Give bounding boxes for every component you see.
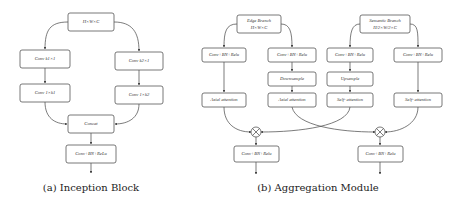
output-left-conv-label: Conv+BN+Relu xyxy=(241,151,272,156)
output-left-conv-box: Conv+BN+Relu xyxy=(234,146,279,162)
edge-branch-box: Edge Branch H×W×C xyxy=(237,15,281,33)
col1-conv-box: Conv+BN+Relu xyxy=(202,48,246,62)
col3-conv-label: Conv+BN+Relu xyxy=(335,52,366,57)
aggregation-module: Edge Branch H×W×C Semantic Branch H/2×W/… xyxy=(202,15,442,193)
output-right-conv-box: Conv+BN+Relu xyxy=(358,146,403,162)
edge-left-to-concat xyxy=(45,102,67,124)
edge-branch-title: Edge Branch xyxy=(246,18,272,23)
col3-attention-label: Self- attention xyxy=(337,97,364,102)
conv-k1x1-label: Conv k1×1 xyxy=(35,56,56,61)
edge-col1-to-mul-left xyxy=(224,107,251,132)
edge-input-to-left xyxy=(45,22,68,49)
input-label: H×W×C xyxy=(82,19,100,24)
semantic-branch-dims: H/2×W/2×C xyxy=(372,25,397,30)
conv-1xk1-box: Conv 1×k1 xyxy=(20,84,70,102)
conv-k2x1-box: Conv k2×1 xyxy=(115,52,163,70)
downsample-label: Downsample xyxy=(279,76,304,81)
edge-col3-to-mul-left xyxy=(261,107,350,132)
edge-col2-to-mul-right xyxy=(292,107,375,132)
inception-block: H×W×C Conv k1×1 Conv 1×k1 Conv k2×1 Conv… xyxy=(20,13,163,193)
col3-self-attention-box: Self- attention xyxy=(327,93,373,107)
concat-box: Concat xyxy=(68,115,114,133)
caption-inception-block: (a) Inception Block xyxy=(43,182,140,193)
caption-aggregation-module: (b) Aggregation Module xyxy=(257,182,379,193)
semantic-branch-box: Semantic Branch H/2×W/2×C xyxy=(360,15,410,33)
col4-conv-box: Conv+BN+Relu xyxy=(394,48,442,62)
upsample-label: Upsample xyxy=(341,76,360,81)
col2-attention-label: Axial attention xyxy=(277,97,306,102)
multiply-left-icon xyxy=(251,127,261,137)
col2-conv-label: Conv+BN+Relu xyxy=(277,52,308,57)
downsample-box: Downsample xyxy=(268,72,316,86)
edge-semantic-to-col4 xyxy=(410,24,418,47)
edge-semantic-to-col3 xyxy=(350,24,360,47)
col1-conv-label: Conv+BN+Relu xyxy=(209,52,240,57)
multiply-right-icon xyxy=(375,127,385,137)
conv-bn-relu-box: Conv+BN+ReLu xyxy=(66,145,116,163)
upsample-box: Upsample xyxy=(327,72,373,86)
edge-edge-to-col2 xyxy=(281,24,292,47)
col2-axial-attention-box: Axial attention xyxy=(268,93,316,107)
col1-attention-label: Axial attention xyxy=(209,97,238,102)
col4-conv-label: Conv+BN+Relu xyxy=(403,52,434,57)
col4-self-attention-box: Self- attention xyxy=(394,93,442,107)
edge-right-to-concat xyxy=(115,104,139,124)
conv-1xk1-label: Conv 1×k1 xyxy=(35,90,56,95)
input-box: H×W×C xyxy=(68,13,114,31)
col4-attention-label: Self- attention xyxy=(405,97,432,102)
conv-k1x1-box: Conv k1×1 xyxy=(20,50,70,68)
diagram-canvas: H×W×C Conv k1×1 Conv 1×k1 Conv k2×1 Conv… xyxy=(0,0,453,204)
edge-branch-dims: H×W×C xyxy=(250,25,268,30)
conv-1xk2-label: Conv 1×k2 xyxy=(129,92,150,97)
output-right-conv-label: Conv+BN+Relu xyxy=(365,151,396,156)
conv-bn-relu-label: Conv+BN+ReLu xyxy=(75,151,107,156)
conv-1xk2-box: Conv 1×k2 xyxy=(115,86,163,104)
concat-label: Concat xyxy=(84,121,98,126)
col2-conv-box: Conv+BN+Relu xyxy=(268,48,316,62)
semantic-branch-title: Semantic Branch xyxy=(369,18,401,23)
col3-conv-box: Conv+BN+Relu xyxy=(327,48,373,62)
edge-input-to-right xyxy=(114,22,139,51)
col1-axial-attention-box: Axial attention xyxy=(202,93,246,107)
edge-col4-to-mul-right xyxy=(385,107,418,132)
edge-edge-to-col1 xyxy=(224,24,237,47)
conv-k2x1-label: Conv k2×1 xyxy=(129,58,150,63)
